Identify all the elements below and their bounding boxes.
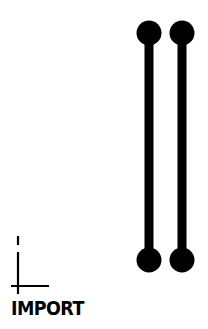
bar-right xyxy=(178,33,187,260)
canvas: IMPORT xyxy=(0,0,208,329)
bar-right-top-knob xyxy=(170,21,195,46)
import-button[interactable]: IMPORT xyxy=(8,232,104,324)
bar-left-top-knob xyxy=(137,21,162,46)
bar-right-bottom-knob xyxy=(170,248,195,273)
bar-left xyxy=(145,33,154,260)
axis-corner-icon xyxy=(8,232,56,298)
bar-left-bottom-knob xyxy=(137,248,162,273)
import-label: IMPORT xyxy=(11,296,84,320)
